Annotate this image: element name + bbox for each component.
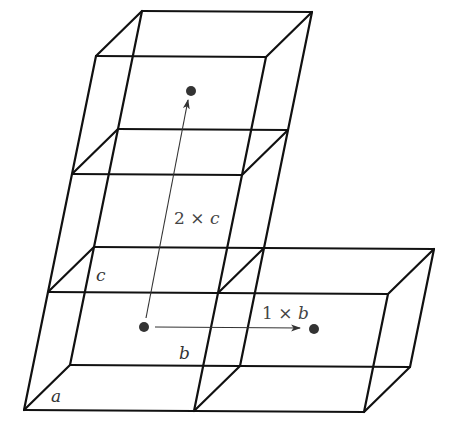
unit-cell-diagram: 2 × c 1 × b c b a: [0, 0, 450, 437]
level-2-plane: [72, 129, 288, 175]
axis-label-a: a: [51, 386, 61, 406]
level-1-plane: [48, 247, 434, 294]
lattice-point-1b: [309, 324, 319, 334]
translation-label-1b: 1 × b: [262, 303, 309, 323]
lattice-point-2c: [186, 86, 196, 96]
translation-label-2c: 2 × c: [174, 208, 220, 228]
axis-label-c: c: [96, 265, 106, 285]
translation-arrow-1b: [155, 327, 300, 328]
lattice-point-origin: [139, 322, 149, 332]
base-plane: [24, 365, 410, 412]
c-edges: [24, 11, 434, 412]
top-plane: [96, 11, 312, 57]
axis-label-b: b: [179, 343, 190, 363]
